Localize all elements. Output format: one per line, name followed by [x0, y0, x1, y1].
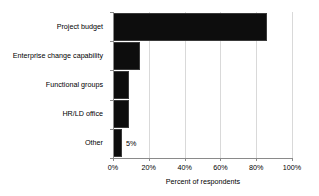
x-axis-title: Percent of respondents — [113, 177, 293, 186]
category-axis-labels: Project budget Enterprise change capabil… — [0, 12, 108, 158]
category-label-functional-groups: Functional groups — [0, 81, 103, 89]
bar-functional-groups — [113, 71, 129, 99]
y-tick-mark — [110, 129, 113, 130]
bar-value-label: 9% — [276, 81, 286, 90]
y-tick-mark — [110, 41, 113, 42]
bar-row: 9% — [113, 71, 292, 99]
bar-value-label: 15% — [272, 51, 286, 60]
x-tick-mark — [292, 158, 293, 161]
x-tick-label: 80% — [249, 163, 263, 172]
x-axis-line — [113, 158, 293, 159]
x-tick-mark — [149, 158, 150, 161]
y-tick-mark — [110, 12, 113, 13]
bar-row: 9% — [113, 100, 292, 128]
bar-enterprise-change-capability — [113, 42, 140, 70]
x-tick-mark — [256, 158, 257, 161]
bar-value-label: 86% — [272, 22, 286, 31]
bar-row: 5% — [113, 129, 292, 157]
bar-value-label: 5% — [126, 139, 136, 148]
category-label-enterprise-change-capability: Enterprise change capability — [0, 52, 103, 60]
y-tick-mark — [110, 100, 113, 101]
category-label-project-budget: Project budget — [0, 23, 103, 31]
bar-chart: Project budget Enterprise change capabil… — [0, 0, 319, 196]
x-tick-mark — [185, 158, 186, 161]
bar-other — [113, 129, 122, 157]
bar-project-budget — [113, 13, 267, 41]
x-tick-label: 60% — [213, 163, 227, 172]
x-tick-mark — [220, 158, 221, 161]
y-tick-mark — [110, 158, 113, 159]
y-axis-line — [113, 12, 114, 159]
x-tick-mark — [113, 158, 114, 161]
gridline-100 — [292, 12, 293, 158]
x-tick-label: 100% — [283, 163, 301, 172]
bar-hr-ld-office — [113, 100, 129, 128]
category-label-other: Other — [0, 139, 103, 147]
bar-value-label: 9% — [276, 110, 286, 119]
plot-area: 86% 15% 9% 9% 5% — [113, 12, 292, 158]
bar-row: 15% — [113, 42, 292, 70]
x-tick-label: 40% — [177, 163, 191, 172]
x-tick-label: 0% — [108, 163, 118, 172]
bar-row: 86% — [113, 13, 292, 41]
x-tick-label: 20% — [142, 163, 156, 172]
y-tick-mark — [110, 70, 113, 71]
category-label-hr-ld-office: HR/LD office — [0, 110, 103, 118]
